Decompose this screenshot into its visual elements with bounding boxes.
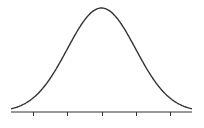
bell-curve-chart <box>0 0 204 128</box>
plot-area <box>0 0 204 128</box>
x-axis-ticks <box>34 112 171 116</box>
normal-density-curve <box>11 8 192 109</box>
